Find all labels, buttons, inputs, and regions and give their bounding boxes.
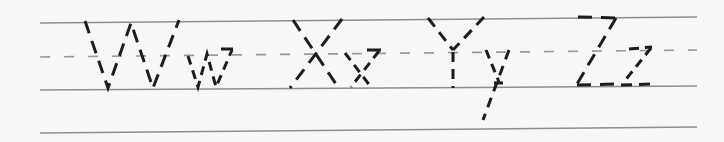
trace-letter-lowercase-x — [345, 50, 381, 87]
worksheet-paper — [0, 0, 724, 142]
letter-stroke — [621, 84, 653, 85]
base-line — [40, 86, 697, 90]
letter-stroke — [428, 18, 453, 50]
letter-stroke — [577, 84, 618, 85]
letter-stroke — [483, 50, 509, 120]
letter-stroke — [345, 53, 371, 87]
letter-stroke — [85, 20, 179, 88]
letter-stroke — [486, 50, 499, 82]
letter-stroke — [623, 48, 651, 83]
ruled-guide-lines — [40, 17, 697, 133]
letter-stroke — [453, 17, 484, 50]
top-line — [40, 17, 697, 23]
bottom-line — [40, 127, 697, 133]
worksheet-canvas — [0, 0, 724, 142]
trace-letter-lowercase-y — [483, 50, 509, 120]
trace-letter-uppercase-w — [85, 20, 179, 88]
trace-letter-lowercase-z — [621, 47, 653, 85]
